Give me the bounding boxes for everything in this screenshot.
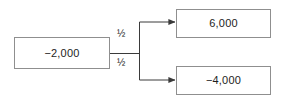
decision-tree-diagram: −2,000 6,000 −4,000 ½ ½ [0, 0, 283, 102]
outcome-node-value-lower: −4,000 [206, 75, 241, 86]
root-node-value: −2,000 [44, 48, 79, 59]
outcome-node-value-upper: 6,000 [209, 18, 238, 29]
root-node-box: −2,000 [14, 37, 110, 69]
branch-probability-label-upper: ½ [117, 29, 125, 39]
branch-probability-label-lower: ½ [117, 58, 125, 68]
outcome-node-box-upper: 6,000 [176, 9, 271, 38]
outcome-node-box-lower: −4,000 [176, 66, 271, 95]
